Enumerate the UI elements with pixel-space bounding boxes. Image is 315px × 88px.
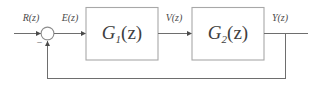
block-diagram-canvas: − R(z) E(z) V(z) Y(z) G1(z) G2(z) <box>0 0 315 88</box>
summing-junction-minus-sign: − <box>37 37 43 48</box>
summing-junction-group <box>41 27 54 40</box>
input-wire-group <box>14 31 41 36</box>
output-signal-label: Y(z) <box>272 12 289 24</box>
intermediate-arrow-icon <box>187 31 192 36</box>
block-g2-base: G <box>208 22 222 43</box>
error-signal-label: E(z) <box>61 12 79 24</box>
block-g2-label: G2(z) <box>208 22 248 44</box>
block-g1-base: G <box>102 22 116 43</box>
summing-junction-circle <box>41 27 54 40</box>
intermediate-signal-label: V(z) <box>166 12 183 24</box>
input-arrow-icon <box>36 31 41 36</box>
feedback-arrow-icon <box>45 41 50 46</box>
error-wire-group <box>54 31 86 36</box>
input-signal-label: R(z) <box>22 12 40 24</box>
error-arrow-icon <box>81 31 86 36</box>
block-g2-arg: (z) <box>227 22 248 44</box>
block-g1-arg: (z) <box>121 22 142 44</box>
intermediate-wire-group <box>158 31 192 36</box>
block-diagram-svg: − R(z) E(z) V(z) Y(z) G1(z) G2(z) <box>0 0 315 88</box>
block-g1-label: G1(z) <box>102 22 142 44</box>
